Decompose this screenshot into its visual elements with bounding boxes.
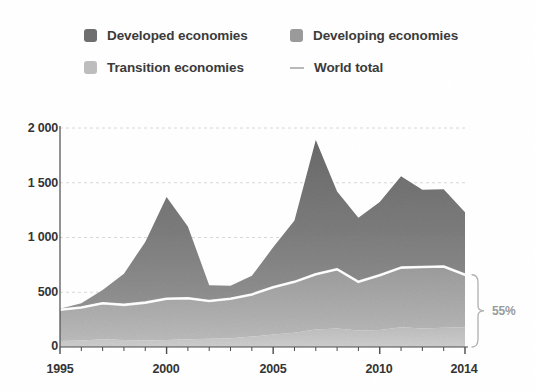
share-annotation-label: 55% [492,304,515,318]
ytick-label-0: 0 [12,339,58,353]
xtick-label-2014: 2014 [441,362,487,376]
stacked-area-svg [0,0,535,392]
xtick-label-2005: 2005 [250,362,296,376]
ytick-label-2000: 2 000 [12,121,58,135]
xtick-label-2010: 2010 [356,362,402,376]
ytick-label-1500: 1 500 [12,176,58,190]
xtick-label-1995: 1995 [37,362,83,376]
xtick-label-2000: 2000 [143,362,189,376]
fdi-stacked-area-figure: Developed economies Developing economies… [0,0,535,392]
ytick-label-500: 500 [12,285,58,299]
chart-plot-area: 2 000 1 500 1 000 500 0 1995 2000 2005 2… [0,0,535,392]
curly-bracket-icon [472,275,484,347]
ytick-label-1000: 1 000 [12,230,58,244]
